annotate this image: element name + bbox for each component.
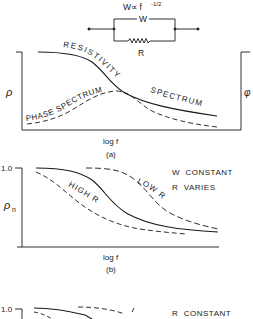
phi-axis-label: φ: [244, 87, 251, 98]
panel-b-caption: (b): [106, 265, 116, 274]
low-r-curve: [86, 168, 218, 229]
panel-a-curves: [27, 52, 217, 127]
resistivity-label: RESISTIVITY: [63, 40, 123, 80]
panel-a-x-label: log f: [103, 137, 119, 146]
high-r-curve: [36, 172, 186, 234]
circuit-title: W∝ f: [123, 2, 142, 12]
rho-n-subscript: n: [12, 206, 16, 213]
panel-b-y-tick: 1.0: [1, 164, 13, 173]
panel-b-legend-line2: R VARIES: [172, 183, 215, 192]
panel-a-axes: [16, 52, 250, 130]
panel-c-curves: [34, 307, 134, 319]
circuit-r-label: R: [138, 48, 144, 58]
mid-curve: [36, 168, 218, 232]
panel-b-legend-line1: W CONSTANT: [172, 168, 233, 177]
panel-c-dashed-a: [34, 312, 52, 319]
panel-c-y-tick: 1.0: [1, 305, 13, 314]
panel-c-dashed-b: [78, 307, 125, 314]
panel-b-axes: [15, 168, 219, 247]
resistor-zigzag: [128, 39, 150, 44]
panel-c-solid: [34, 308, 92, 319]
panel-b-x-label: log f: [103, 253, 119, 262]
panel-c-axes: [15, 309, 22, 319]
phase-spectrum-label: PHASE SPECTRUM: [25, 85, 103, 123]
panel-a-caption: (a): [106, 150, 116, 159]
panel-b-curves: [36, 168, 218, 234]
circuit-title-exponent: -1/2: [151, 1, 162, 7]
rho-axis-label: ρ: [5, 86, 12, 98]
rho-n-axis-label: ρ: [3, 199, 10, 211]
figure: W∝ f -1/2 W R RESISTIVITY SPECTRUM PHASE…: [0, 0, 253, 319]
circuit-w-label: W: [139, 14, 147, 24]
panel-c-legend-line1: R CONSTANT: [172, 309, 231, 318]
panel-c-tick-mark: [132, 308, 134, 312]
